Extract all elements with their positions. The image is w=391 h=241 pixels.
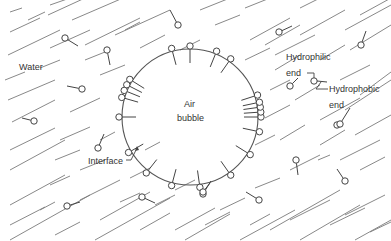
water-hatch-line — [320, 130, 345, 145]
surfactant-molecule — [22, 118, 37, 124]
water-hatch-line — [8, 80, 55, 100]
surfactant-molecule — [243, 128, 263, 135]
water-hatch-line — [28, 12, 45, 20]
hydrophobic-tail — [170, 10, 176, 22]
hydrophobic-tail — [198, 170, 200, 184]
hydrophobic-tail — [221, 161, 229, 172]
free-surfactant-molecules — [22, 10, 366, 209]
water-hatch-line — [10, 8, 22, 12]
surfactant-molecule — [67, 86, 85, 92]
water-hatch-line — [10, 18, 40, 32]
water-hatch-line — [10, 207, 45, 225]
hydrophilic-head-icon — [139, 194, 145, 200]
legend-molecule — [307, 73, 328, 89]
hydrophobic-tail — [243, 103, 257, 106]
hydrophilic-head-icon — [116, 114, 122, 120]
water-hatch-line — [295, 85, 320, 100]
interface-label: Interface — [88, 156, 123, 166]
water-hatch-line — [140, 213, 170, 230]
surfactant-molecule — [210, 48, 220, 67]
surfactant-molecule — [337, 108, 350, 127]
hydrophobic-tail — [296, 163, 298, 175]
hydrophilic-head-icon — [168, 182, 174, 188]
hydrophilic-head-icon — [342, 178, 348, 184]
hydrophobic-tail — [132, 81, 144, 88]
water-hatch-line — [220, 198, 245, 210]
hydrophilic-head-icon — [175, 22, 181, 28]
hydrophilic-head-icon — [213, 48, 219, 54]
hydrophilic-head-icon — [104, 47, 110, 53]
water-hatch-line — [5, 72, 25, 80]
hydrophobic-label-line2: end — [329, 100, 344, 110]
water-hatch-line — [345, 5, 391, 30]
hydrophilic-label-line1: Hydrophilic — [286, 52, 331, 62]
surfactant-molecule — [168, 169, 176, 189]
water-hatch-line — [8, 30, 60, 55]
hydrophilic-head-icon — [293, 157, 299, 163]
hydrophobic-tail — [243, 128, 257, 131]
water-hatch-line — [265, 25, 300, 45]
surfactant-molecule — [170, 10, 181, 28]
water-hatch-line — [10, 175, 65, 205]
surfactant-molecule — [168, 45, 176, 65]
hydrophobic-tail — [205, 183, 210, 189]
water-hatch-line — [185, 214, 230, 240]
hydrophobic-tail — [236, 146, 248, 153]
hydrophobic-leader-line — [316, 82, 328, 89]
water-hatch-line — [10, 140, 65, 170]
surfactant-molecule — [119, 94, 139, 102]
hydrophobic-tail — [108, 53, 110, 65]
water-hatch-line — [55, 150, 80, 160]
water-hatch-line — [360, 157, 385, 170]
hydrophobic-tail — [67, 86, 79, 88]
hydrophobic-tail — [337, 169, 343, 178]
water-hatch-line — [120, 193, 140, 202]
hydrophobic-tail — [129, 86, 141, 92]
water-hatch-line — [40, 60, 60, 68]
water-hatch-line — [245, 48, 270, 60]
hydrophilic-head-icon — [287, 83, 293, 89]
water-hatch-line — [10, 128, 55, 150]
water-hatch-line — [155, 195, 175, 205]
hydrophilic-head-icon — [95, 145, 101, 151]
water-hatch-line — [125, 22, 140, 30]
hydrophobic-tail — [125, 98, 138, 102]
water-hatch-line — [10, 195, 90, 240]
hydrophobic-tail — [172, 169, 176, 183]
water-hatch-line — [215, 15, 240, 25]
water-hatch-line — [255, 135, 275, 145]
water-hatch-line — [60, 127, 90, 140]
water-hatch-line — [175, 208, 215, 230]
water-hatch-line — [300, 0, 320, 8]
hydrophobic-tail — [292, 78, 298, 84]
air-bubble-label-line2: bubble — [177, 113, 204, 123]
hydrophilic-head-icon — [121, 87, 127, 93]
water-hatch-line — [340, 65, 370, 80]
water-hatch-line — [50, 30, 90, 48]
hydrophilic-head-icon — [256, 99, 262, 105]
water-hatch-line — [85, 18, 140, 45]
hydrophilic-head-icon — [168, 45, 174, 51]
water-hatch-line — [340, 140, 380, 160]
hydrophobic-tail — [241, 96, 254, 100]
hydrophilic-head-icon — [254, 92, 260, 98]
water-hatch-line — [345, 195, 385, 215]
water-hatch-line — [280, 125, 305, 140]
surfactant-molecule — [116, 114, 136, 120]
water-hatch-line — [48, 0, 85, 15]
hydrophilic-head-icon — [228, 172, 234, 178]
hydrophobic-tail — [243, 108, 257, 110]
surfactant-molecule — [246, 192, 262, 203]
hydrophobic-tail — [22, 118, 31, 120]
water-hatch-line — [250, 214, 270, 225]
hydrophobic-tail — [145, 198, 155, 203]
surfactant-molecule — [104, 47, 110, 65]
hydrophobic-label-line1: Hydrophobic — [329, 84, 380, 94]
hydrophobic-tail — [148, 160, 157, 171]
water-hatch-line — [245, 0, 270, 8]
hydrophobic-tail — [172, 51, 176, 65]
water-hatch-line — [255, 178, 280, 188]
hydrophilic-leader-line — [307, 73, 314, 78]
hydrophilic-head-icon — [200, 189, 206, 195]
hydrophilic-head-icon — [256, 197, 262, 203]
